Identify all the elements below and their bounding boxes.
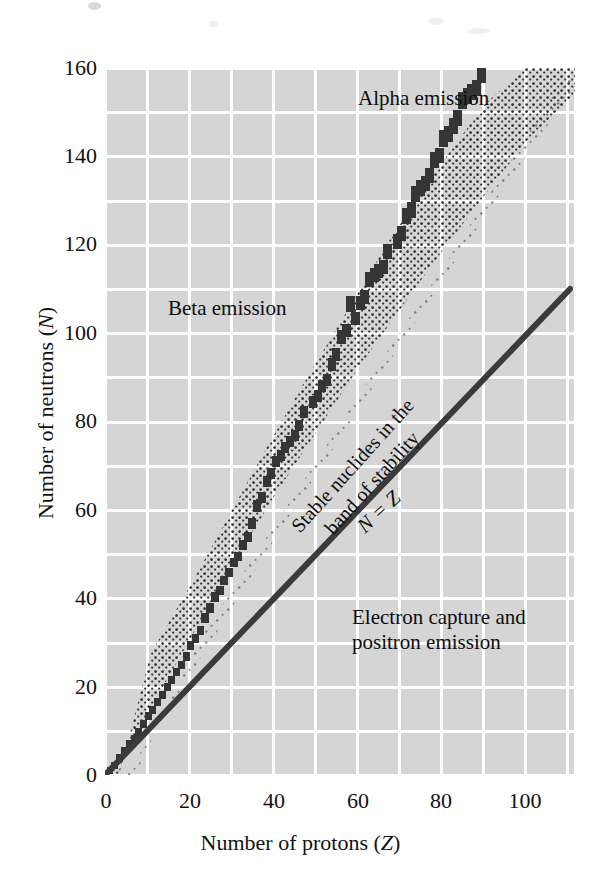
- x-tick-100: 100: [495, 790, 555, 812]
- x-tick-60: 60: [328, 790, 388, 812]
- x-tick-20: 20: [160, 790, 220, 812]
- x-tick-40: 40: [244, 790, 304, 812]
- y-axis-title: Number of neutrons (N): [33, 263, 59, 563]
- y-tick-160: 160: [35, 57, 97, 79]
- x-axis-title: Number of protons (Z): [0, 830, 601, 856]
- annotation-beta-emission: Beta emission: [168, 296, 286, 321]
- x-axis-title-symbol: Z: [381, 830, 393, 855]
- band-of-stability-figure: Alpha emission Beta emission Electron ca…: [0, 0, 601, 886]
- y-tick-140: 140: [35, 145, 97, 167]
- scan-speckle: [468, 28, 490, 34]
- x-axis-title-suffix: ): [393, 830, 400, 855]
- y-tick-0: 0: [35, 764, 97, 786]
- x-tick-0: 0: [76, 790, 136, 812]
- y-tick-120: 120: [35, 233, 97, 255]
- chart-data-layer: [105, 68, 575, 775]
- scan-speckle: [88, 2, 101, 10]
- x-tick-80: 80: [411, 790, 471, 812]
- annotation-electron-capture: Electron capture and positron emission: [352, 605, 526, 655]
- y-tick-20: 20: [35, 676, 97, 698]
- scan-speckle: [208, 21, 218, 27]
- plot-area: Alpha emission Beta emission Electron ca…: [105, 68, 575, 775]
- y-axis-title-prefix: Number of neutrons (: [33, 329, 58, 519]
- scan-speckle: [428, 18, 444, 25]
- y-axis-title-symbol: N: [33, 314, 58, 329]
- x-axis-title-prefix: Number of protons (: [201, 830, 381, 855]
- y-axis-title-suffix: ): [33, 307, 58, 314]
- annotation-alpha-emission: Alpha emission: [358, 86, 489, 111]
- y-tick-40: 40: [35, 587, 97, 609]
